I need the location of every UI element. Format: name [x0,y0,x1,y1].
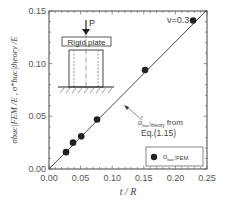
legend-marker-icon [151,154,157,160]
data-point [70,139,77,146]
inset-cylinder-diagram: P Rigid plate [58,18,114,93]
x-tick-label: 0.10 [103,173,121,183]
load-label: P [89,18,95,28]
x-tick-label: 0.20 [167,173,185,183]
data-point [78,133,85,140]
theory-annotation: σbuc|theoryfrom [138,118,183,128]
y-tick-label: 0.15 [28,6,46,16]
buckling-stress-chart: 0.000.050.100.150.200.250.000.050.100.15… [0,0,226,201]
data-point [63,149,70,156]
data-point [142,67,149,74]
svg-text:*: * [141,115,143,121]
x-tick-label: 0.15 [135,173,153,183]
theory-equation-ref: Eq.(1.15) [141,128,176,138]
y-tick-label: 0.05 [28,111,46,121]
poisson-ratio-label: ν=0.3 [167,15,189,25]
data-point [94,116,101,123]
annotation-arrow-icon [124,105,129,110]
y-tick-label: 0.10 [28,59,46,69]
y-axis-label: σbuc|FEM /E , σ*buc|theory /E [9,36,19,144]
rigid-plate-label: Rigid plate [68,38,106,47]
ground-hatch-icon [60,88,112,93]
x-axis-label: t / R [120,186,137,197]
data-point [190,17,197,24]
y-tick-label: 0.00 [28,164,46,174]
x-tick-label: 0.25 [198,173,216,183]
x-tick-label: 0.05 [72,173,90,183]
x-tick-label: 0.00 [40,173,58,183]
